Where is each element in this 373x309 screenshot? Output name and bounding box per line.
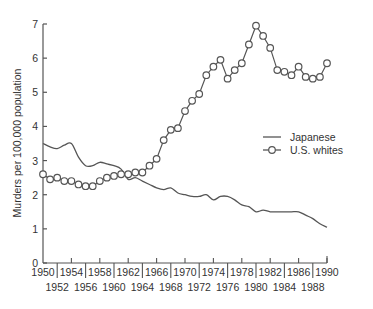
data-point-marker <box>132 169 139 176</box>
data-point-marker <box>253 22 260 29</box>
data-point-marker <box>168 127 175 134</box>
data-point-marker <box>75 181 82 188</box>
data-point-marker <box>153 156 160 163</box>
data-point-marker <box>125 171 132 178</box>
x-tick-label: 1960 <box>102 281 126 293</box>
x-tick-label: 1958 <box>88 266 112 278</box>
y-tick-label: 6 <box>32 52 38 64</box>
data-point-marker <box>302 74 309 81</box>
us-whites-line-path <box>43 26 327 186</box>
x-tick-label: 1962 <box>117 266 141 278</box>
data-point-marker <box>160 137 167 144</box>
legend-circle-marker-icon <box>269 147 276 154</box>
x-tick-label: 1986 <box>287 266 311 278</box>
x-tick-label: 1968 <box>159 281 183 293</box>
data-point-marker <box>239 60 246 67</box>
data-point-marker <box>317 74 324 81</box>
data-point-marker <box>139 169 146 176</box>
y-tick-label: 4 <box>32 120 38 132</box>
data-point-marker <box>182 108 189 115</box>
x-tick-label: 1970 <box>173 266 197 278</box>
x-tick-label: 1966 <box>145 266 169 278</box>
data-point-marker <box>146 162 153 169</box>
data-point-marker <box>288 72 295 79</box>
data-point-marker <box>260 33 267 40</box>
data-point-marker <box>295 63 302 70</box>
x-axis: 1950195419581962196619701974197819821986… <box>31 256 339 293</box>
data-point-marker <box>267 45 274 52</box>
data-point-marker <box>203 72 210 79</box>
y-axis: 01234567 <box>32 18 47 269</box>
data-point-marker <box>54 174 61 181</box>
x-tick-label: 1974 <box>202 266 226 278</box>
data-point-marker <box>324 60 331 67</box>
line-chart: 01234567 1950195419581962196619701974197… <box>0 0 373 309</box>
data-point-marker <box>118 171 125 178</box>
data-point-marker <box>89 183 96 190</box>
x-tick-label: 1980 <box>244 281 268 293</box>
y-axis-title: Murders per 100,000 population <box>11 68 23 217</box>
data-point-marker <box>104 174 111 181</box>
x-tick-label: 1990 <box>315 266 339 278</box>
x-tick-label: 1950 <box>31 266 55 278</box>
x-tick-label: 1984 <box>273 281 297 293</box>
y-tick-label: 2 <box>32 189 38 201</box>
y-tick-label: 5 <box>32 86 38 98</box>
data-point-marker <box>217 57 224 64</box>
x-tick-label: 1972 <box>188 281 212 293</box>
x-tick-label: 1956 <box>74 281 98 293</box>
y-tick-label: 3 <box>32 155 38 167</box>
legend-label-us-whites: U.S. whites <box>290 144 343 156</box>
x-tick-label: 1976 <box>216 281 240 293</box>
x-tick-label: 1978 <box>230 266 254 278</box>
data-point-marker <box>274 67 281 74</box>
x-tick-label: 1964 <box>131 281 155 293</box>
data-point-marker <box>189 98 196 105</box>
data-point-marker <box>68 178 75 185</box>
x-tick-label: 1952 <box>46 281 70 293</box>
data-point-marker <box>97 178 104 185</box>
data-point-marker <box>246 41 253 48</box>
data-point-marker <box>40 171 47 178</box>
data-point-marker <box>82 183 89 190</box>
legend-label-japanese: Japanese <box>290 131 336 143</box>
data-point-marker <box>175 125 182 132</box>
y-tick-label: 7 <box>32 18 38 30</box>
data-point-marker <box>210 63 217 70</box>
x-tick-label: 1982 <box>259 266 283 278</box>
y-tick-label: 1 <box>32 223 38 235</box>
x-tick-label: 1988 <box>301 281 325 293</box>
data-point-marker <box>111 173 118 180</box>
data-point-marker <box>47 176 54 183</box>
data-point-marker <box>196 91 203 98</box>
data-point-marker <box>224 75 231 82</box>
data-point-marker <box>231 67 238 74</box>
legend: Japanese U.S. whites <box>263 131 343 156</box>
data-point-marker <box>61 178 68 185</box>
data-point-marker <box>310 75 317 82</box>
x-tick-label: 1954 <box>60 266 84 278</box>
data-point-marker <box>281 69 288 76</box>
